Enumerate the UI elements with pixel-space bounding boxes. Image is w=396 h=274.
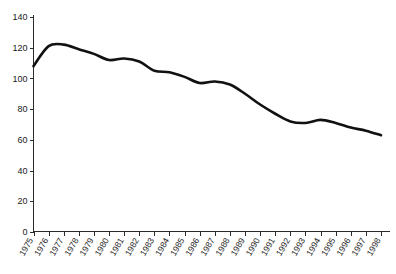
y-tick-label: 80 bbox=[17, 104, 27, 114]
y-tick-label: 40 bbox=[17, 166, 27, 176]
line-chart: 020406080100120140 197519761977197819791… bbox=[0, 0, 396, 274]
y-tick-label: 140 bbox=[12, 12, 27, 22]
chart-canvas: 020406080100120140 197519761977197819791… bbox=[0, 0, 396, 274]
y-tick-label: 60 bbox=[17, 135, 27, 145]
y-tick-label: 120 bbox=[12, 43, 27, 53]
y-tick-label: 20 bbox=[17, 196, 27, 206]
y-tick-label: 100 bbox=[12, 74, 27, 84]
y-tick-label: 0 bbox=[22, 227, 27, 237]
